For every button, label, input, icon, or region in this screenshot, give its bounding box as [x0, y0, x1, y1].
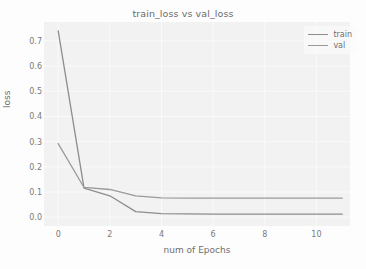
- y-tick-label: 0.6: [4, 62, 42, 71]
- y-tick-label: 0.2: [4, 162, 42, 171]
- y-tick-label: 0.7: [4, 36, 42, 45]
- x-tick-label: 6: [198, 230, 228, 239]
- x-tick-label: 4: [146, 230, 176, 239]
- x-tick-label: 8: [250, 230, 280, 239]
- legend-label-train: train: [333, 30, 352, 39]
- legend-swatch-train: [308, 34, 328, 35]
- legend-item-val: val: [308, 40, 352, 51]
- legend-swatch-val: [308, 45, 328, 46]
- x-axis-ticks: 0246810: [44, 230, 350, 244]
- chart-legend: train val: [304, 26, 356, 54]
- y-tick-label: 0.1: [4, 188, 42, 197]
- series-lines: [58, 31, 342, 214]
- legend-label-val: val: [333, 41, 345, 50]
- chart-title: train_loss vs val_loss: [0, 8, 366, 19]
- x-tick-label: 0: [43, 230, 73, 239]
- line-series-train: [58, 31, 342, 214]
- x-axis-label: num of Epochs: [44, 245, 350, 255]
- y-tick-label: 0.3: [4, 137, 42, 146]
- y-axis-ticks: 0.00.10.20.30.40.50.60.7: [0, 22, 42, 226]
- x-tick-label: 2: [95, 230, 125, 239]
- chart-figure: train_loss vs val_loss loss 0.00.10.20.3…: [0, 0, 366, 269]
- line-series-val: [58, 144, 342, 198]
- y-tick-label: 0.0: [4, 213, 42, 222]
- y-tick-label: 0.5: [4, 87, 42, 96]
- x-tick-label: 10: [301, 230, 331, 239]
- y-tick-label: 0.4: [4, 112, 42, 121]
- legend-item-train: train: [308, 29, 352, 40]
